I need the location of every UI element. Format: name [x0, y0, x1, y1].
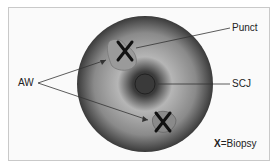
legend-symbol: X	[214, 138, 221, 149]
os-icon	[135, 74, 155, 94]
label-scj: SCJ	[232, 78, 251, 89]
label-punct: Punct	[232, 22, 258, 33]
legend: X=Biopsy	[214, 138, 257, 149]
legend-text: =Biopsy	[221, 138, 257, 149]
label-aw: AW	[18, 77, 34, 88]
